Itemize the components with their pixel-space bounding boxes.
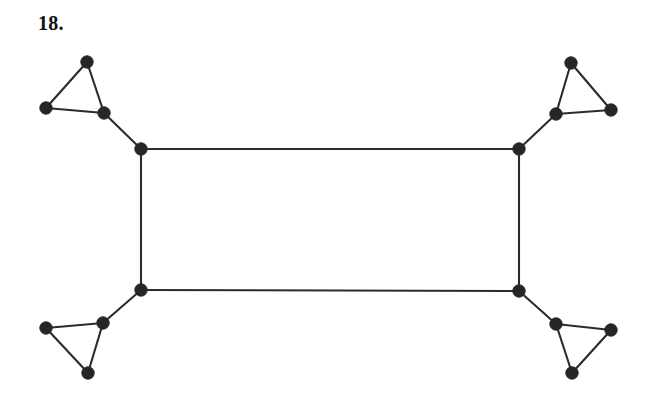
- figure-root: 18.: [0, 0, 658, 407]
- graph-vertex-rectangle-bottom-right-corner: [513, 285, 525, 297]
- graph-edge-bottom-left-triangle-edge-b: [46, 328, 88, 373]
- graph-edge-bottom-right-connector: [519, 291, 556, 324]
- graph-vertex-bottom-left-triangle-left: [40, 322, 52, 334]
- graph-edge-top-right-triangle-edge-b: [571, 63, 611, 110]
- graph-vertex-top-left-triangle-left: [40, 102, 52, 114]
- graph-vertex-top-left-triangle-apex: [81, 56, 93, 68]
- graph-edge-top-left-triangle-edge-c: [46, 108, 104, 113]
- graph-edge-rectangle-bottom-side: [141, 290, 519, 291]
- graph-edge-top-right-triangle-edge-c: [556, 110, 611, 114]
- graph-edge-bottom-right-triangle-edge-b: [572, 330, 611, 373]
- graph-vertex-top-right-triangle-apex: [565, 57, 577, 69]
- graph-vertex-top-right-triangle-right: [605, 104, 617, 116]
- graph-vertex-bottom-right-triangle-hub: [550, 318, 562, 330]
- graph-edge-top-right-triangle-edge-a: [556, 63, 571, 114]
- graph-edge-top-left-triangle-edge-a: [87, 62, 104, 113]
- graph-vertex-bottom-right-triangle-apex: [566, 367, 578, 379]
- graph-vertex-top-left-triangle-hub: [98, 107, 110, 119]
- graph-vertex-rectangle-top-left-corner: [135, 143, 147, 155]
- graph-edge-bottom-left-connector: [103, 290, 141, 323]
- graph-vertex-bottom-right-triangle-right: [605, 324, 617, 336]
- graph-edge-bottom-left-triangle-edge-a: [46, 323, 103, 328]
- graph-edge-top-left-triangle-edge-b: [46, 62, 87, 108]
- graph-vertex-bottom-left-triangle-hub: [97, 317, 109, 329]
- graph-edge-bottom-right-triangle-edge-a: [556, 324, 611, 330]
- graph-vertex-layer: [40, 56, 617, 379]
- graph-vertex-bottom-left-triangle-apex: [82, 367, 94, 379]
- graph-edge-top-left-connector: [104, 113, 141, 149]
- graph-edge-bottom-right-triangle-edge-c: [556, 324, 572, 373]
- graph-diagram: [0, 0, 658, 407]
- graph-edge-layer: [46, 62, 611, 373]
- graph-vertex-rectangle-bottom-left-corner: [135, 284, 147, 296]
- graph-vertex-top-right-triangle-hub: [550, 108, 562, 120]
- graph-edge-bottom-left-triangle-edge-c: [88, 323, 103, 373]
- graph-vertex-rectangle-top-right-corner: [513, 143, 525, 155]
- graph-edge-top-right-connector: [519, 114, 556, 149]
